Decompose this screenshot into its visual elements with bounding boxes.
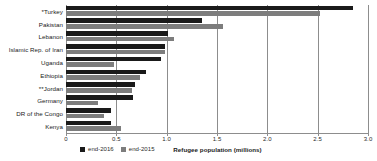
- bar-end-2016: [66, 57, 161, 62]
- legend-swatch-icon: [80, 147, 85, 152]
- bar-end-2015: [66, 114, 104, 119]
- gridline-3.0: [368, 5, 369, 133]
- x-tick-label: 2.5: [313, 136, 322, 142]
- category-label: Lebanon: [1, 33, 63, 40]
- bar-end-2015: [66, 24, 223, 29]
- legend-label: end-2015: [129, 146, 155, 152]
- category-label: Ethiopia: [1, 72, 63, 79]
- category-label: Kenya: [1, 123, 63, 130]
- bar-end-2015: [66, 101, 98, 106]
- bar-group: [66, 18, 368, 31]
- bar-end-2016: [66, 70, 146, 75]
- category-label: Pakistan: [1, 21, 63, 28]
- bar-group: [66, 95, 368, 108]
- bar-group: [66, 5, 368, 18]
- bar-group: [66, 31, 368, 44]
- category-label: DR of the Congo: [1, 110, 63, 117]
- bar-end-2015: [66, 62, 114, 67]
- bar-end-2016: [66, 18, 202, 23]
- bar-end-2015: [66, 50, 165, 55]
- bar-group: [66, 56, 368, 69]
- refugee-population-bar-chart: *TurkeyPakistanLebanonIslamic Rep. of Ir…: [0, 0, 377, 161]
- bar-end-2016: [66, 31, 168, 36]
- bar-group: [66, 82, 368, 95]
- x-tick-label: 0: [64, 136, 67, 142]
- bar-group: [66, 107, 368, 120]
- x-tick-label: 0.5: [112, 136, 121, 142]
- bar-end-2016: [66, 121, 111, 126]
- bar-end-2015: [66, 37, 174, 42]
- bar-end-2016: [66, 44, 165, 49]
- plot-area: [66, 5, 368, 133]
- bar-end-2016: [66, 108, 111, 113]
- bar-group: [66, 69, 368, 82]
- bar-end-2016: [66, 6, 353, 11]
- x-tick-label: 3.0: [364, 136, 373, 142]
- bar-end-2016: [66, 82, 135, 87]
- x-tick-label: 1.5: [213, 136, 222, 142]
- bar-end-2015: [66, 88, 132, 93]
- legend-swatch-icon: [121, 147, 126, 152]
- legend-item[interactable]: end-2016: [80, 146, 114, 152]
- category-axis-labels: *TurkeyPakistanLebanonIslamic Rep. of Ir…: [0, 5, 63, 133]
- bar-end-2015: [66, 126, 121, 131]
- category-label: Islamic Rep. of Iran: [1, 46, 63, 53]
- bar-end-2015: [66, 75, 140, 80]
- category-label: Uganda: [1, 59, 63, 66]
- category-label: **Jordan: [1, 85, 63, 92]
- bar-end-2016: [66, 95, 133, 100]
- x-tick-label: 1.0: [162, 136, 171, 142]
- legend-item[interactable]: end-2015: [121, 146, 155, 152]
- chart-legend: end-2016end-2015: [80, 146, 155, 152]
- category-label: Germany: [1, 97, 63, 104]
- bar-group: [66, 43, 368, 56]
- x-tick-label: 2.0: [263, 136, 272, 142]
- category-label: *Turkey: [1, 8, 63, 15]
- bar-end-2015: [66, 11, 320, 16]
- bar-group: [66, 120, 368, 133]
- legend-label: end-2016: [88, 146, 114, 152]
